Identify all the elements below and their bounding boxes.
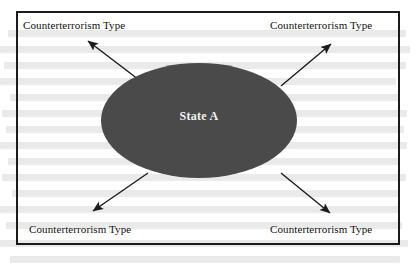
diagram-canvas: State A Counterterrorism Type Counterter… <box>0 0 417 265</box>
node-label-bottom-left: Counterterrorism Type <box>29 223 131 235</box>
arrow-to-bottom-left <box>93 173 148 211</box>
center-node-label: State A <box>101 109 297 124</box>
arrow-to-bottom-right <box>281 173 330 213</box>
arrow-to-top-right <box>281 44 331 86</box>
node-label-top-left: Counterterrorism Type <box>23 19 125 31</box>
node-label-bottom-right: Counterterrorism Type <box>270 223 372 235</box>
node-label-top-right: Counterterrorism Type <box>270 19 372 31</box>
